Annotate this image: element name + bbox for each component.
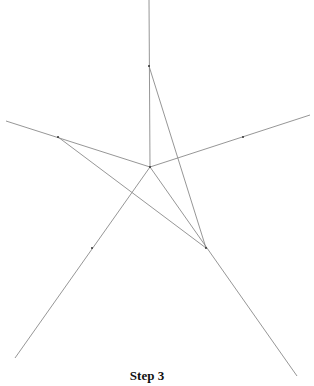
- vertex-dot: [242, 136, 244, 138]
- step-caption: Step 3: [0, 368, 294, 384]
- chord-left-to-bottom-right: [58, 137, 206, 248]
- geometric-construction-diagram: [0, 0, 314, 386]
- ray-right: [150, 115, 310, 167]
- ray-lower-left: [15, 167, 150, 358]
- vertex-dot: [91, 247, 93, 249]
- ray-up: [149, 0, 150, 167]
- ray-left: [6, 121, 150, 167]
- vertex-dot: [149, 166, 151, 168]
- chord-top-to-bottom-right: [149, 66, 206, 248]
- ray-lower-right: [150, 167, 297, 376]
- vertex-dot: [148, 65, 150, 67]
- radial-lines: [6, 0, 310, 376]
- vertex-dot: [205, 247, 207, 249]
- vertex-dot: [57, 136, 59, 138]
- star-chords: [58, 66, 206, 248]
